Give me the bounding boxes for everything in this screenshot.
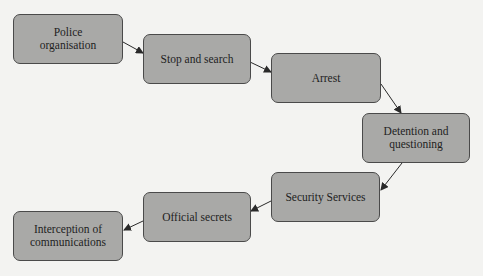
node-detention-and-questioning: Detention and questioning xyxy=(362,113,470,163)
node-police-organisation: Police organisation xyxy=(13,14,123,64)
node-label: Security Services xyxy=(285,191,365,204)
flowchart-canvas: Police organisation Stop and search Arre… xyxy=(0,0,483,276)
arrow-secrets-to-interception xyxy=(124,221,143,230)
arrow-arrest-to-detention xyxy=(381,84,401,113)
node-arrest: Arrest xyxy=(271,53,381,103)
node-interception-of-communications: Interception of communications xyxy=(13,211,123,261)
node-label: Interception of communications xyxy=(28,223,108,249)
node-security-services: Security Services xyxy=(271,172,380,222)
arrow-security-to-secrets xyxy=(251,201,271,211)
arrow-stop-to-arrest xyxy=(250,62,271,72)
node-label: Arrest xyxy=(312,72,341,85)
arrow-detention-to-security xyxy=(381,163,402,190)
node-official-secrets: Official secrets xyxy=(143,192,251,242)
arrow-police-to-stop xyxy=(123,42,143,53)
node-label: Official secrets xyxy=(162,211,232,224)
node-label: Stop and search xyxy=(161,53,234,66)
node-label: Police organisation xyxy=(33,26,103,52)
node-stop-and-search: Stop and search xyxy=(143,34,251,84)
node-label: Detention and questioning xyxy=(380,125,452,151)
